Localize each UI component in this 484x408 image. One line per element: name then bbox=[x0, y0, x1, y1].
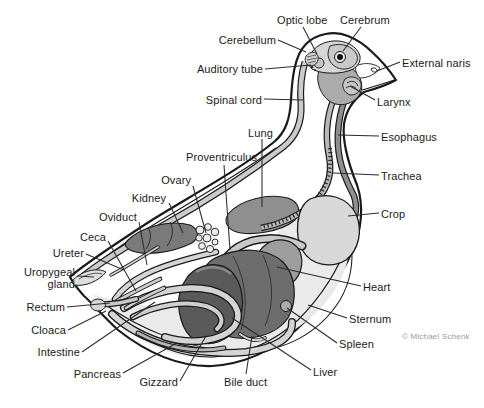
label-cerebrum: Cerebrum bbox=[340, 14, 390, 26]
label-heart: Heart bbox=[363, 281, 390, 293]
leader-cerebellum bbox=[278, 40, 306, 52]
crop-shape bbox=[298, 196, 360, 265]
bird-anatomy-figure: Optic lobe Cerebrum Cerebellum Auditory … bbox=[0, 0, 484, 408]
label-spinal-cord: Spinal cord bbox=[206, 94, 262, 106]
label-spleen: Spleen bbox=[339, 338, 374, 350]
label-ceca: Ceca bbox=[80, 231, 106, 243]
label-lung: Lung bbox=[248, 127, 273, 139]
label-trachea: Trachea bbox=[381, 170, 422, 182]
label-bile-duct: Bile duct bbox=[224, 376, 267, 388]
label-auditory-tube: Auditory tube bbox=[197, 63, 263, 75]
label-esophagus: Esophagus bbox=[381, 131, 437, 143]
auditory-tube-shape bbox=[311, 66, 314, 69]
label-ovary: Ovary bbox=[161, 174, 191, 186]
label-rectum: Rectum bbox=[27, 301, 66, 313]
label-optic-lobe: Optic lobe bbox=[277, 14, 328, 26]
label-cerebellum: Cerebellum bbox=[219, 34, 276, 46]
label-proventriculus: Proventriculus bbox=[186, 151, 257, 163]
label-uropygeal-gland: Uropygeal gland bbox=[24, 266, 75, 290]
label-cloaca: Cloaca bbox=[31, 324, 66, 336]
label-ureter: Ureter bbox=[53, 247, 84, 259]
label-gizzard: Gizzard bbox=[139, 376, 178, 388]
label-pancreas: Pancreas bbox=[74, 368, 121, 380]
label-sternum: Sternum bbox=[349, 313, 391, 325]
copyright-credit: © Michael Schenk bbox=[402, 332, 470, 341]
label-crop: Crop bbox=[381, 208, 405, 220]
leader-cloaca bbox=[68, 311, 106, 330]
label-oviduct: Oviduct bbox=[99, 211, 137, 223]
label-larynx: Larynx bbox=[377, 96, 411, 108]
label-liver: Liver bbox=[313, 366, 337, 378]
label-intestine: Intestine bbox=[38, 346, 80, 358]
label-kidney: Kidney bbox=[132, 192, 166, 204]
label-external-naris: External naris bbox=[402, 57, 471, 69]
